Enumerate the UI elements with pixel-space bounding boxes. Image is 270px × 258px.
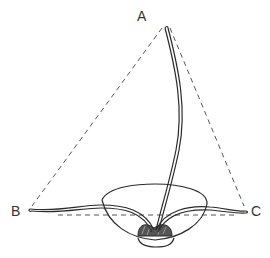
long-stem (156, 27, 182, 231)
dashed-line-a-b (32, 28, 162, 206)
label-c: C (251, 204, 261, 218)
dashed-triangle (32, 28, 244, 215)
diagram-canvas: A B C (0, 0, 270, 258)
bowl (102, 184, 207, 247)
label-a: A (137, 9, 146, 23)
dashed-line-a-c (170, 28, 244, 206)
plant-bowl-diagram (0, 0, 270, 258)
bowl-back-rim (102, 184, 207, 204)
seed-bulb (138, 225, 172, 236)
label-b: B (11, 204, 20, 218)
left-leaf (29, 205, 154, 232)
